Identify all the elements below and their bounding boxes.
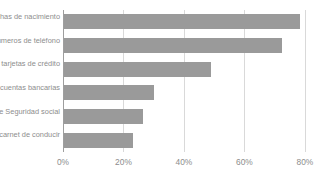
chart-title-cropped (0, 0, 332, 8)
bar-chart: Fechas de nacimientoNúmeros de teléfonoI… (0, 0, 332, 183)
gridline-40pct (184, 10, 185, 152)
category-label: Números de teléfono (0, 37, 60, 46)
gridline-80pct (305, 10, 306, 152)
bar-row (63, 85, 154, 100)
bar-row (63, 133, 133, 148)
bar-row (63, 14, 300, 29)
category-label: Números de Seguridad social (0, 108, 60, 117)
bar-row (63, 62, 211, 77)
bar (63, 133, 133, 148)
bar (63, 14, 300, 29)
bar-row (63, 109, 143, 124)
category-label: Información de tarjetas de crédito (0, 60, 60, 69)
x-tick-label: 20% (115, 157, 132, 167)
bar-row (63, 38, 282, 53)
category-label: Números de cuentas bancarias (0, 84, 60, 93)
x-axis-tick-labels: 0%20%40%60%80% (0, 157, 332, 173)
gridline-60pct (244, 10, 245, 152)
bar (63, 109, 143, 124)
plot-area (63, 10, 320, 152)
gridline-20pct (123, 10, 124, 152)
x-tick-label: 80% (296, 157, 313, 167)
y-axis-line (63, 10, 64, 152)
x-tick-label: 40% (176, 157, 193, 167)
category-label: Información del carnet de conducir (0, 131, 60, 140)
x-tick-label: 0% (57, 157, 69, 167)
bar (63, 62, 211, 77)
bar (63, 38, 282, 53)
bar (63, 85, 154, 100)
x-tick-label: 60% (236, 157, 253, 167)
category-label: Fechas de nacimiento (0, 13, 60, 22)
